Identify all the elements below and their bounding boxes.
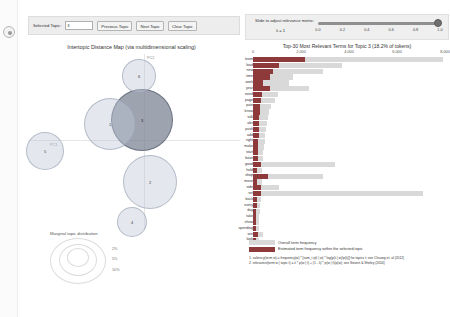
term-label: push: [245, 127, 253, 132]
topic-bubble-label: 4: [131, 220, 133, 225]
bar-topic: [253, 144, 258, 149]
term-label: spending: [238, 226, 253, 231]
term-label: show: [245, 220, 253, 225]
bar-row[interactable]: right: [245, 139, 449, 144]
bar-topic: [253, 168, 257, 173]
bar-topic: [253, 133, 259, 138]
bar-row[interactable]: shop: [245, 174, 449, 179]
relevance-slider-ticks: 0.00.20.40.60.81.0: [318, 28, 442, 36]
term-label: pain: [246, 103, 253, 108]
marginal-legend-title: Marginal topic distribution: [50, 231, 160, 236]
bar-topic: [253, 121, 259, 126]
bar-row[interactable]: make: [245, 144, 449, 149]
bar-row[interactable]: set: [245, 191, 449, 196]
term-label: work: [245, 80, 253, 85]
x-tick-label-3: 6,000: [392, 50, 402, 54]
marginal-distribution-legend: Marginal topic distribution 2% 5% 10%: [50, 231, 160, 288]
term-label: year: [246, 86, 253, 91]
bar-row[interactable]: day: [245, 209, 449, 214]
relevance-slider-handle[interactable]: [434, 19, 442, 27]
selected-topic-label: Selected Topic:: [33, 23, 61, 28]
bar-overall: [253, 191, 423, 196]
clear-topic-button[interactable]: Clear Topic: [168, 21, 197, 31]
selected-topic-input[interactable]: [65, 21, 93, 30]
bar-row[interactable]: abs: [245, 121, 449, 126]
term-label: every: [244, 203, 253, 208]
bar-row[interactable]: add: [245, 133, 449, 138]
topic-bubble-5[interactable]: 5: [26, 132, 64, 170]
bar-row[interactable]: push: [245, 127, 449, 132]
topic-bubble-1[interactable]: 1: [84, 98, 136, 150]
bar-topic: [253, 115, 259, 120]
term-label: team: [245, 57, 253, 62]
legend-size-label-10: 10%: [112, 268, 120, 272]
bar-row[interactable]: hold: [245, 168, 449, 173]
bar-row[interactable]: move: [245, 179, 449, 184]
bar-row[interactable]: every: [245, 203, 449, 208]
bar-row[interactable]: show: [245, 220, 449, 225]
legend-label-topic: Estimated term frequency within the sele…: [278, 247, 363, 251]
term-label: shop: [245, 173, 253, 178]
topic-toolbar: Selected Topic: Previous Topic Next Topi…: [28, 16, 240, 35]
legend-circle-2: [67, 248, 89, 267]
x-tick-label-2: 4,000: [344, 50, 354, 54]
term-label: take: [246, 214, 253, 219]
bar-topic: [253, 191, 261, 196]
bar-topic: [253, 232, 258, 237]
bar-row[interactable]: spending: [245, 226, 449, 231]
bar-topic: [253, 57, 305, 62]
left-rail: [0, 0, 18, 317]
topic-bubble-2[interactable]: 2: [123, 155, 177, 209]
bar-row[interactable]: work: [245, 80, 449, 85]
bar-topic: [253, 92, 262, 97]
term-label: new: [246, 68, 253, 73]
bar-row[interactable]: talk: [245, 115, 449, 120]
bar-row[interactable]: load: [245, 63, 449, 68]
settings-circle-icon[interactable]: [3, 26, 15, 38]
bar-row[interactable]: side: [245, 185, 449, 190]
bar-row[interactable]: start: [245, 150, 449, 155]
intertopic-distance-map[interactable]: PC2 PC1 531624: [28, 54, 240, 229]
bar-row[interactable]: back: [245, 197, 449, 202]
bar-row[interactable]: year: [245, 86, 449, 91]
slider-tick-4: 0.8: [413, 28, 418, 32]
topic-bubble-label: 1: [109, 122, 111, 127]
map-title: Intertopic Distance Map (via multidimens…: [18, 44, 245, 50]
bar-topic: [253, 69, 273, 74]
bar-topic: [253, 203, 257, 208]
term-label: time: [246, 74, 253, 79]
legend-swatch-overall: [249, 240, 275, 245]
term-label: page: [245, 98, 253, 103]
topic-bubble-label: 5: [44, 149, 46, 154]
term-label: make: [244, 144, 253, 149]
bar-row[interactable]: team: [245, 57, 449, 62]
bar-topic: [253, 209, 256, 214]
bar-topic: [253, 86, 270, 91]
bar-topic: [253, 139, 258, 144]
bar-row[interactable]: base: [245, 156, 449, 161]
next-topic-button[interactable]: Next Topic: [136, 21, 163, 31]
bar-row[interactable]: good: [245, 162, 449, 167]
bar-row[interactable]: win: [245, 232, 449, 237]
previous-topic-button[interactable]: Previous Topic: [97, 21, 132, 31]
bar-topic: [253, 162, 261, 167]
topic-bubble-label: 6: [138, 74, 140, 79]
bar-row[interactable]: new: [245, 69, 449, 74]
bar-row[interactable]: know: [245, 109, 449, 114]
bar-row[interactable]: time: [245, 74, 449, 79]
chart-bars: teamloadnewtimeworkyearneedpagepainknowt…: [245, 57, 449, 233]
term-label: load: [246, 63, 253, 68]
bar-row[interactable]: page: [245, 98, 449, 103]
slider-tick-1: 0.2: [340, 28, 345, 32]
bar-row[interactable]: need: [245, 92, 449, 97]
term-label: start: [246, 150, 253, 155]
bar-topic: [253, 156, 258, 161]
term-label: right: [246, 138, 253, 143]
map-y-axis-label: PC2: [147, 56, 154, 60]
topic-bubble-6[interactable]: 6: [122, 59, 156, 93]
bar-topic: [253, 174, 268, 179]
bar-row[interactable]: take: [245, 214, 449, 219]
bar-topic: [253, 179, 257, 184]
bar-row[interactable]: pain: [245, 104, 449, 109]
relevance-slider-track[interactable]: [318, 22, 440, 25]
